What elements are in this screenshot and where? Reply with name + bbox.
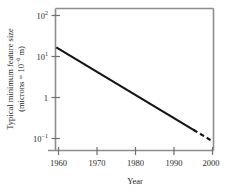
y-tick-label-0.1: 10−1 [33,133,48,143]
x-axis-title: Year [127,176,143,186]
series-projected-line [194,130,213,142]
y-tick-label-10: 101 [37,51,49,61]
y-axis-title-line2-post: m) [16,46,26,58]
x-tick-label-1980: 1980 [127,158,144,168]
y-tick-label-1: 1 [44,93,48,103]
y-axis-title-line2-pre: (microns = 10 [16,64,26,112]
x-tick-labels: 1960 1970 1980 1990 2000 [50,158,220,168]
y-axis-title: Typical minimum feature size (microns = … [5,28,26,130]
y-axis-title-line1: Typical minimum feature size [5,28,15,130]
y-tick-labels: 102 101 1 10−1 [33,10,48,143]
series-historical-line [56,47,196,131]
x-tick-label-1990: 1990 [166,158,183,168]
x-tick-label-1970: 1970 [89,158,106,168]
y-tick-label-100: 102 [37,10,49,20]
data-series [56,47,213,141]
figure-container: 102 101 1 10−1 1960 1970 1980 1990 2000 … [0,0,228,192]
x-tick-label-2000: 2000 [203,158,220,168]
plot-frame [48,9,214,151]
line-chart: 102 101 1 10−1 1960 1970 1980 1990 2000 … [0,0,228,192]
y-axis-title-line2: (microns = 10−6 m) [15,46,25,112]
x-tick-label-1960: 1960 [50,158,67,168]
